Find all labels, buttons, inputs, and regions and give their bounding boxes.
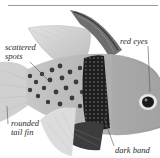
fish-diagram: scattered spots red eyes rounded tail fi… bbox=[0, 0, 160, 158]
label-red-eyes: red eyes bbox=[120, 37, 148, 46]
tail-fin bbox=[0, 62, 30, 122]
label-red-eyes-text: red eyes bbox=[120, 37, 148, 46]
red-eye-icon bbox=[142, 97, 154, 108]
label-dark-band: dark band bbox=[115, 146, 150, 155]
label-scattered-spots: scattered spots bbox=[5, 43, 36, 61]
label-dark-band-text: dark band bbox=[115, 146, 150, 155]
label-rounded-tail-fin-line2: tail fin bbox=[11, 128, 39, 137]
fish-head bbox=[112, 56, 160, 131]
label-scattered-spots-line2: spots bbox=[5, 52, 36, 61]
label-rounded-tail-fin: rounded tail fin bbox=[11, 119, 39, 137]
